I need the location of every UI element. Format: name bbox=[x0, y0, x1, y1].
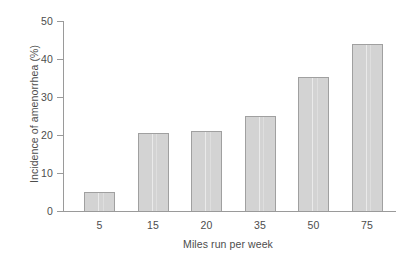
x-tick-label: 75 bbox=[344, 219, 390, 231]
bar-shade-stripe bbox=[263, 117, 264, 211]
bar bbox=[245, 116, 276, 211]
bar-shade-stripe bbox=[317, 78, 318, 211]
bar bbox=[352, 44, 383, 211]
bar-highlight-stripe bbox=[98, 193, 99, 211]
bar-highlight-stripe bbox=[205, 132, 206, 211]
x-tick-label: 15 bbox=[130, 219, 176, 231]
x-axis-title: Miles run per week bbox=[60, 238, 396, 250]
bar-highlight-stripe bbox=[259, 117, 260, 211]
bar bbox=[298, 77, 329, 211]
x-tick-label: 50 bbox=[291, 219, 337, 231]
bar bbox=[138, 133, 169, 211]
bar-highlight-stripe bbox=[152, 134, 153, 211]
bar bbox=[191, 131, 222, 211]
x-tick-label: 20 bbox=[184, 219, 230, 231]
x-tick-label: 5 bbox=[77, 219, 123, 231]
bar-shade-stripe bbox=[210, 132, 211, 211]
bar-highlight-stripe bbox=[366, 45, 367, 211]
bar-shade-stripe bbox=[370, 45, 371, 211]
bar-shade-stripe bbox=[156, 134, 157, 211]
x-tick-label: 35 bbox=[237, 219, 283, 231]
bar-shade-stripe bbox=[103, 193, 104, 211]
bar bbox=[84, 192, 115, 211]
bar-chart-figure: Incidence of amenorrhea (%) 01020304050 … bbox=[0, 0, 410, 260]
bar-highlight-stripe bbox=[312, 78, 313, 211]
